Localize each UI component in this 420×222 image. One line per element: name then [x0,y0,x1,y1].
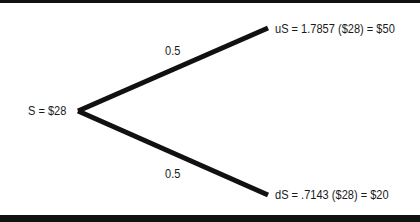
down-branch-line [78,111,268,195]
up-branch-line [78,28,268,111]
up-probability-label: 0.5 [165,44,180,58]
bottom-border-bar [0,215,420,222]
up-node-label: uS = 1.7857 ($28) = $50 [275,22,395,36]
down-node-label: dS = .7143 ($28) = $20 [275,188,389,202]
root-node-label: S = $28 [28,104,66,118]
down-probability-label: 0.5 [165,167,180,181]
